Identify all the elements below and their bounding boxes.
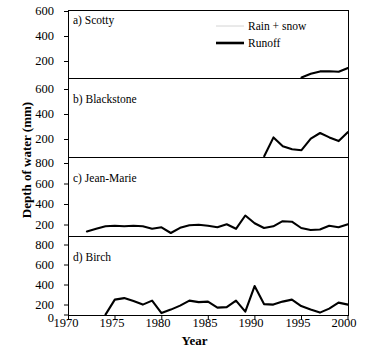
panel-d-runoff-line — [106, 286, 349, 315]
plot-svg — [0, 0, 389, 353]
panel-d-frame — [69, 237, 349, 316]
panel-a-runoff-line — [302, 68, 349, 77]
panel-frames — [69, 11, 349, 316]
y-axis-ticks — [64, 12, 69, 316]
panel-b-runoff-line — [264, 132, 348, 156]
panel-b-frame — [69, 79, 349, 158]
figure-container: Depth of water (mm) Year 600 400 200 600… — [0, 0, 389, 353]
panel-a-frame — [69, 11, 349, 79]
panel-c-runoff-line — [87, 216, 348, 234]
x-axis-ticks — [69, 316, 349, 321]
panel-c-frame — [69, 158, 349, 237]
legend-swatches — [216, 26, 244, 43]
